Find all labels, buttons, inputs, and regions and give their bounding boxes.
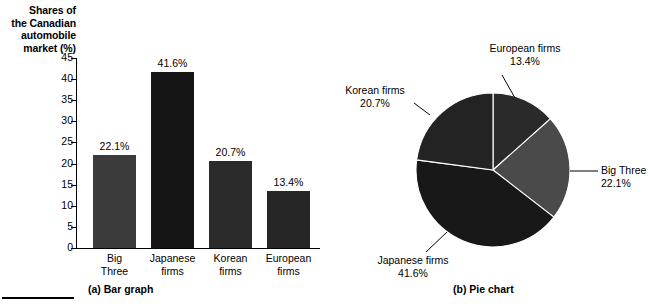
pie-label-european-firms-value: 13.4% (470, 55, 580, 68)
bar-category-korean-firms-line2: firms (202, 265, 259, 278)
bar-korean-firms: 20.7% (209, 161, 252, 248)
bar-value-japanese-firms: 41.6% (158, 57, 188, 69)
y-tick-label-15: 15 (61, 178, 73, 191)
pie-label-japanese-firms-value: 41.6% (358, 267, 468, 280)
pie-label-japanese-firms-name: Japanese firms (377, 254, 448, 266)
bar-category-big-three: Big Three (86, 252, 143, 277)
pie-label-european-firms: European firms 13.4% (470, 42, 580, 67)
bar-category-japanese-firms: Japanese firms (144, 252, 201, 277)
pie-label-big-three-name: Big Three (601, 164, 646, 176)
y-tick-label-30: 30 (61, 114, 73, 127)
y-tick-label-10: 10 (61, 199, 73, 212)
bar-category-japanese-firms-line2: firms (144, 265, 201, 278)
bar-big-three: 22.1% (93, 155, 136, 248)
y-axis-title-line-2: the Canadian (2, 17, 76, 30)
bar-value-european-firms: 13.4% (274, 176, 304, 188)
pie-label-european-firms-name: European firms (489, 42, 560, 54)
y-tick-label-5: 5 (67, 220, 73, 233)
y-axis-title-line-3: automobile (2, 29, 76, 42)
bar-category-european-firms: European firms (260, 252, 317, 277)
pie-label-big-three-value: 22.1% (601, 177, 651, 190)
pie-slice-korean-firms (417, 93, 493, 170)
bar-category-european-firms-line2: firms (260, 265, 317, 278)
panel-a-caption: (a) Bar graph (88, 283, 153, 295)
bar-category-european-firms-line1: European (260, 252, 317, 265)
pie-chart-panel: European firms 13.4% Korean firms 20.7% … (330, 0, 643, 307)
bar-plot-area: 0 5 10 15 20 25 30 35 (76, 58, 320, 249)
bar-graph-panel: Shares of the Canadian automobile market… (0, 0, 330, 307)
y-axis-line (76, 58, 77, 249)
y-tick-label-35: 35 (61, 93, 73, 106)
bar-japanese-firms: 41.6% (151, 72, 194, 248)
leader-line-japanese-firms (426, 232, 447, 252)
page-rule-divider (2, 297, 74, 299)
pie-label-korean-firms-value: 20.7% (330, 97, 420, 110)
x-axis-line (76, 248, 320, 249)
bar-category-japanese-firms-line1: Japanese (144, 252, 201, 265)
y-tick-label-40: 40 (61, 72, 73, 85)
y-axis-title: Shares of the Canadian automobile market… (2, 4, 76, 54)
y-tick-label-0: 0 (67, 241, 73, 254)
y-tick-label-45: 45 (61, 51, 73, 64)
pie-label-korean-firms-name: Korean firms (345, 84, 405, 96)
bar-value-korean-firms: 20.7% (216, 146, 246, 158)
pie-label-big-three: Big Three 22.1% (601, 164, 651, 189)
bar-value-big-three: 22.1% (100, 140, 130, 152)
pie-label-korean-firms: Korean firms 20.7% (330, 84, 420, 109)
bar-category-big-three-line2: Three (86, 265, 143, 278)
y-tick-label-25: 25 (61, 135, 73, 148)
bar-european-firms: 13.4% (267, 191, 310, 248)
y-tick-label-20: 20 (61, 157, 73, 170)
pie-label-japanese-firms: Japanese firms 41.6% (358, 254, 468, 279)
y-axis-title-line-1: Shares of (2, 4, 76, 17)
bar-category-big-three-line1: Big (86, 252, 143, 265)
bar-category-korean-firms: Korean firms (202, 252, 259, 277)
panel-b-caption: (b) Pie chart (453, 283, 514, 295)
bar-category-korean-firms-line1: Korean (202, 252, 259, 265)
